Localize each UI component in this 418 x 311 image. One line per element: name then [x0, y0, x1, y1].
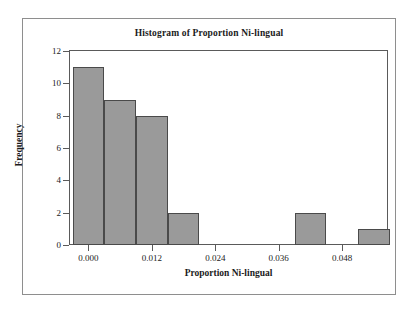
x-axis-title: Proportion Ni-lingual: [69, 268, 388, 278]
histogram-bar: [358, 229, 390, 245]
y-axis-tick-label: 6: [39, 143, 61, 153]
y-axis-tick-label: 0: [39, 240, 61, 250]
x-axis-tick: [215, 245, 216, 251]
plot-area: [70, 51, 387, 245]
y-axis-tick-label: 12: [39, 46, 61, 56]
x-axis-tick-label: 0.000: [78, 253, 98, 263]
histogram-figure: Histogram of Proportion Ni-lingual Frequ…: [0, 0, 418, 311]
y-axis-title: Frequency: [14, 95, 24, 195]
y-axis-tick-label: 10: [39, 78, 61, 88]
y-axis-tick-label: 4: [39, 175, 61, 185]
chart-title: Histogram of Proportion Ni-lingual: [22, 28, 396, 38]
x-axis-tick: [152, 245, 153, 251]
x-axis-tick: [88, 245, 89, 251]
y-axis-tick-label: 2: [39, 208, 61, 218]
x-axis-tick-label: 0.036: [269, 253, 289, 263]
y-axis-tick-labels: 024681012: [33, 0, 61, 311]
x-axis-tick-label: 0.024: [205, 253, 225, 263]
histogram-bar: [73, 67, 105, 245]
histogram-bar: [168, 213, 200, 245]
x-axis-tick: [279, 245, 280, 251]
histogram-bar: [136, 116, 168, 245]
x-axis-tick: [342, 245, 343, 251]
histogram-bar: [104, 100, 136, 246]
x-axis-tick-label: 0.048: [332, 253, 352, 263]
x-axis-tick-label: 0.012: [142, 253, 162, 263]
y-axis-tick-label: 8: [39, 111, 61, 121]
y-axis-tick: [63, 245, 69, 246]
histogram-bar: [295, 213, 327, 245]
